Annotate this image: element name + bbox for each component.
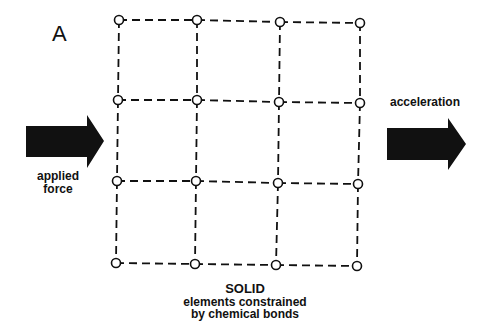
element-node (274, 179, 283, 188)
bond-line (196, 100, 197, 181)
applied-force-arrow-icon (26, 115, 104, 168)
panel-label: A (52, 21, 67, 47)
bond-line (197, 20, 280, 22)
bond-line (278, 102, 279, 183)
element-node (276, 18, 285, 27)
element-node (353, 262, 362, 271)
element-node (356, 19, 365, 28)
element-node (115, 16, 124, 25)
chemical-bonds (116, 20, 360, 266)
bond-line (357, 184, 358, 266)
applied-force-label: applied force (18, 170, 98, 196)
bond-line (279, 102, 360, 103)
element-node (193, 96, 202, 105)
element-node (193, 16, 202, 25)
bond-line (280, 22, 360, 23)
element-node (356, 99, 365, 108)
bond-line (358, 103, 360, 184)
element-node (192, 177, 201, 186)
element-node (191, 260, 200, 269)
bond-line (279, 22, 280, 102)
element-node (272, 261, 281, 270)
bond-line (195, 264, 276, 265)
element-node (275, 98, 284, 107)
acceleration-label: acceleration (380, 96, 470, 109)
bond-line (276, 183, 278, 265)
element-node (113, 177, 122, 186)
bond-line (118, 20, 119, 100)
caption: SOLID elements constrained by chemical b… (150, 283, 340, 321)
acceleration-arrow-icon (387, 118, 466, 170)
bond-line (195, 181, 196, 264)
lattice-elements (112, 16, 365, 271)
bond-line (116, 263, 195, 264)
caption-line2: by chemical bonds (150, 308, 340, 321)
bond-line (196, 181, 278, 183)
bond-line (116, 181, 117, 263)
bond-line (117, 100, 118, 181)
element-node (112, 259, 121, 268)
caption-title: SOLID (150, 283, 340, 296)
element-node (354, 180, 363, 189)
applied-force-line2: force (18, 183, 98, 196)
bond-line (276, 265, 357, 266)
element-node (114, 96, 123, 105)
bond-line (197, 100, 279, 102)
bond-line (278, 183, 358, 184)
